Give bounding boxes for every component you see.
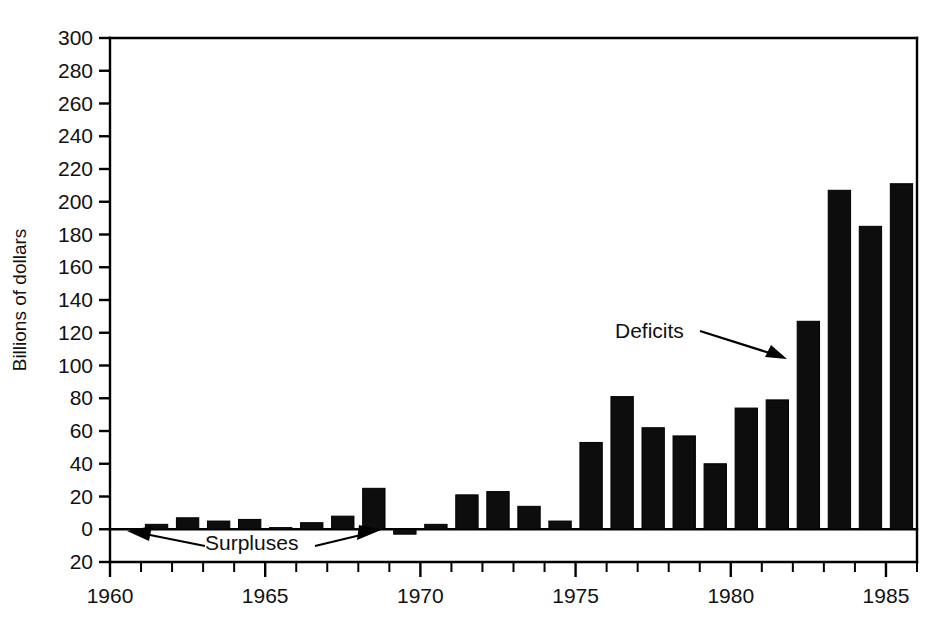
bar-1968	[363, 488, 385, 529]
bar-1985	[890, 184, 912, 530]
budget-deficit-bar-chart: 3002802602402202001801601401201008060402…	[0, 0, 949, 631]
y-axis-title: Billions of dollars	[9, 229, 30, 372]
bar-1975	[580, 442, 602, 529]
bar-1974	[549, 521, 571, 529]
chart-canvas: 3002802602402202001801601401201008060402…	[0, 0, 949, 631]
y-axis-tick-label: 40	[70, 452, 93, 475]
x-axis-tick-label: 1975	[552, 584, 599, 607]
y-axis-tick-label: 280	[58, 59, 93, 82]
x-axis-tick-label: 1965	[242, 584, 289, 607]
y-axis-tick-label: 200	[58, 190, 93, 213]
bar-1971	[456, 495, 478, 529]
y-axis-tick-label: 20	[70, 550, 93, 573]
surpluses-left-arrow-shaft	[145, 534, 205, 546]
y-axis-tick-label: 240	[58, 124, 93, 147]
y-axis-tick-label: 180	[58, 223, 93, 246]
bar-1980	[735, 408, 757, 529]
y-axis-tick-label: 80	[70, 386, 93, 409]
x-axis-tick-label: 1980	[707, 584, 754, 607]
y-axis-tick-label: 120	[58, 321, 93, 344]
bar-1978	[673, 436, 695, 529]
bar-1969	[394, 529, 416, 534]
deficits-arrow-head	[765, 345, 787, 359]
bar-1962	[176, 518, 198, 529]
bar-1973	[518, 506, 540, 529]
bar-1964	[238, 519, 260, 529]
bar-series	[145, 184, 912, 534]
bar-1981	[766, 400, 788, 529]
bar-1963	[207, 521, 229, 529]
bar-1984	[859, 226, 881, 529]
bar-1965	[270, 528, 292, 530]
x-axis-tick-label: 1960	[87, 584, 134, 607]
bar-1970	[425, 524, 447, 529]
y-axis-tick-label: 160	[58, 255, 93, 278]
y-axis-tick-label: 140	[58, 288, 93, 311]
bar-1966	[301, 523, 323, 530]
x-axis-tick-label: 1970	[397, 584, 444, 607]
bar-1977	[642, 428, 664, 530]
deficits-annotation-label: Deficits	[615, 319, 684, 342]
y-axis-tick-label: 100	[58, 354, 93, 377]
bar-1983	[828, 190, 850, 529]
bar-1967	[332, 516, 354, 529]
bar-1979	[704, 464, 726, 530]
bar-1982	[797, 321, 819, 529]
y-axis-tick-label: 300	[58, 26, 93, 49]
x-axis-tick-label: 1985	[863, 584, 910, 607]
y-axis-tick-label: 260	[58, 92, 93, 115]
y-axis-tick-label: 20	[70, 485, 93, 508]
bar-1972	[487, 492, 509, 530]
surpluses-annotation-label: Surpluses	[205, 531, 298, 554]
y-axis-tick-label: 0	[81, 517, 93, 540]
deficits-arrow-shaft	[700, 331, 779, 356]
bar-1976	[611, 397, 633, 530]
surpluses-right-arrow-shaft	[315, 534, 365, 546]
x-axis: 196019651970197519801985	[87, 562, 917, 607]
deficits-annotation: Deficits	[615, 319, 787, 359]
y-axis-tick-label: 60	[70, 419, 93, 442]
y-axis-tick-label: 220	[58, 157, 93, 180]
